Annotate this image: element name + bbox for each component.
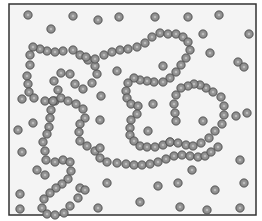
chain-bead (146, 160, 155, 169)
free-monomer (236, 204, 245, 213)
chain-bead (143, 143, 152, 152)
chain-bead (59, 47, 68, 56)
free-monomer (149, 100, 158, 109)
chain-bead (122, 160, 131, 169)
free-monomer (96, 144, 105, 153)
chain-bead (64, 97, 73, 106)
diagram-canvas (0, 0, 262, 221)
chain-bead (148, 33, 157, 42)
chain-bead (184, 38, 193, 47)
chain-bead (57, 69, 66, 78)
polymer-diagram (0, 0, 262, 221)
free-monomer (199, 30, 208, 39)
free-monomer (243, 109, 252, 118)
chain-bead (41, 147, 50, 156)
chain-bead (50, 77, 59, 86)
chain-bead (51, 158, 60, 167)
chain-bead (218, 120, 227, 129)
chain-bead (116, 46, 125, 55)
free-monomer (103, 179, 112, 188)
free-monomer (82, 53, 91, 62)
chain-bead (108, 48, 117, 57)
chain-bead (156, 29, 165, 38)
free-monomer (113, 67, 122, 76)
chain-bead (127, 116, 136, 125)
chain-bead (130, 161, 139, 170)
diagram-frame (9, 4, 256, 215)
chain-bead (26, 51, 35, 60)
chain-bead (220, 111, 229, 120)
chain-bead (154, 158, 163, 167)
free-monomer (136, 198, 145, 207)
chain-bead (71, 80, 80, 89)
chain-bead (49, 97, 58, 106)
free-monomer (206, 49, 215, 58)
free-monomer (240, 63, 249, 72)
chain-bead (51, 211, 60, 220)
chain-bead (51, 48, 60, 57)
chain-bead (141, 39, 150, 48)
chain-bead (41, 97, 50, 106)
chain-bead (93, 70, 102, 79)
chain-bead (170, 100, 179, 109)
chain-bead (113, 159, 122, 168)
chain-bead (79, 105, 88, 114)
chain-bead (186, 46, 195, 55)
chain-bead (220, 102, 229, 111)
free-monomer (94, 16, 103, 25)
chain-bead (69, 46, 78, 55)
free-monomer (154, 182, 163, 191)
chain-bead (42, 156, 51, 165)
chain-bead (170, 152, 179, 161)
chain-bead (211, 127, 220, 136)
chain-bead (133, 43, 142, 52)
free-monomer (144, 127, 153, 136)
free-monomer (33, 166, 42, 175)
free-monomer (151, 13, 160, 22)
chain-bead (54, 86, 63, 95)
free-monomer (232, 112, 241, 121)
chain-bead (66, 202, 75, 211)
free-monomer (94, 204, 103, 213)
chain-bead (151, 143, 160, 152)
chain-bead (159, 78, 168, 87)
free-monomer (16, 190, 25, 199)
free-monomer (115, 13, 124, 22)
chain-bead (26, 61, 35, 70)
chain-bead (134, 102, 143, 111)
free-monomer (97, 92, 106, 101)
free-monomer (215, 11, 224, 20)
chain-bead (205, 134, 214, 143)
free-monomer (16, 205, 25, 214)
chain-bead (75, 128, 84, 137)
chain-bead (197, 139, 206, 148)
chain-bead (172, 91, 181, 100)
chain-bead (24, 80, 33, 89)
free-monomer (188, 166, 197, 175)
chain-bead (186, 152, 195, 161)
chain-bead (66, 70, 75, 79)
chain-bead (162, 155, 171, 164)
free-monomer (18, 95, 27, 104)
chain-bead (30, 94, 39, 103)
free-monomer (199, 117, 208, 126)
chain-bead (138, 161, 147, 170)
chain-bead (174, 139, 183, 148)
chain-bead (67, 167, 76, 176)
free-monomer (47, 25, 56, 34)
chain-bead (124, 45, 133, 54)
chain-bead (74, 194, 83, 203)
chain-bead (29, 43, 38, 52)
free-monomer (203, 206, 212, 215)
chain-bead (60, 209, 69, 218)
chain-bead (164, 30, 173, 39)
chain-bead (40, 195, 49, 204)
chain-bead (172, 117, 181, 126)
free-monomer (174, 179, 183, 188)
free-monomer (41, 171, 50, 180)
chain-bead (178, 151, 187, 160)
free-monomer (14, 126, 23, 135)
chain-bead (79, 85, 88, 94)
chain-bead (23, 72, 32, 81)
chain-bead (217, 93, 226, 102)
